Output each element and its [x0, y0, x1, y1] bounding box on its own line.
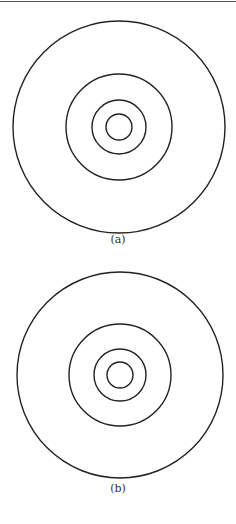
ring-1: [17, 272, 223, 478]
figure-a: [13, 21, 225, 233]
ring-3: [92, 100, 146, 154]
figure-b: [17, 272, 223, 478]
caption-a: (a): [0, 233, 236, 246]
ring-4: [107, 362, 133, 388]
concentric-circles-diagram: [0, 0, 236, 524]
ring-3: [94, 349, 146, 401]
ring-2: [66, 74, 172, 180]
caption-b: (b): [0, 482, 236, 495]
ring-1: [13, 21, 225, 233]
ring-4: [106, 114, 132, 140]
ring-2: [69, 324, 171, 426]
